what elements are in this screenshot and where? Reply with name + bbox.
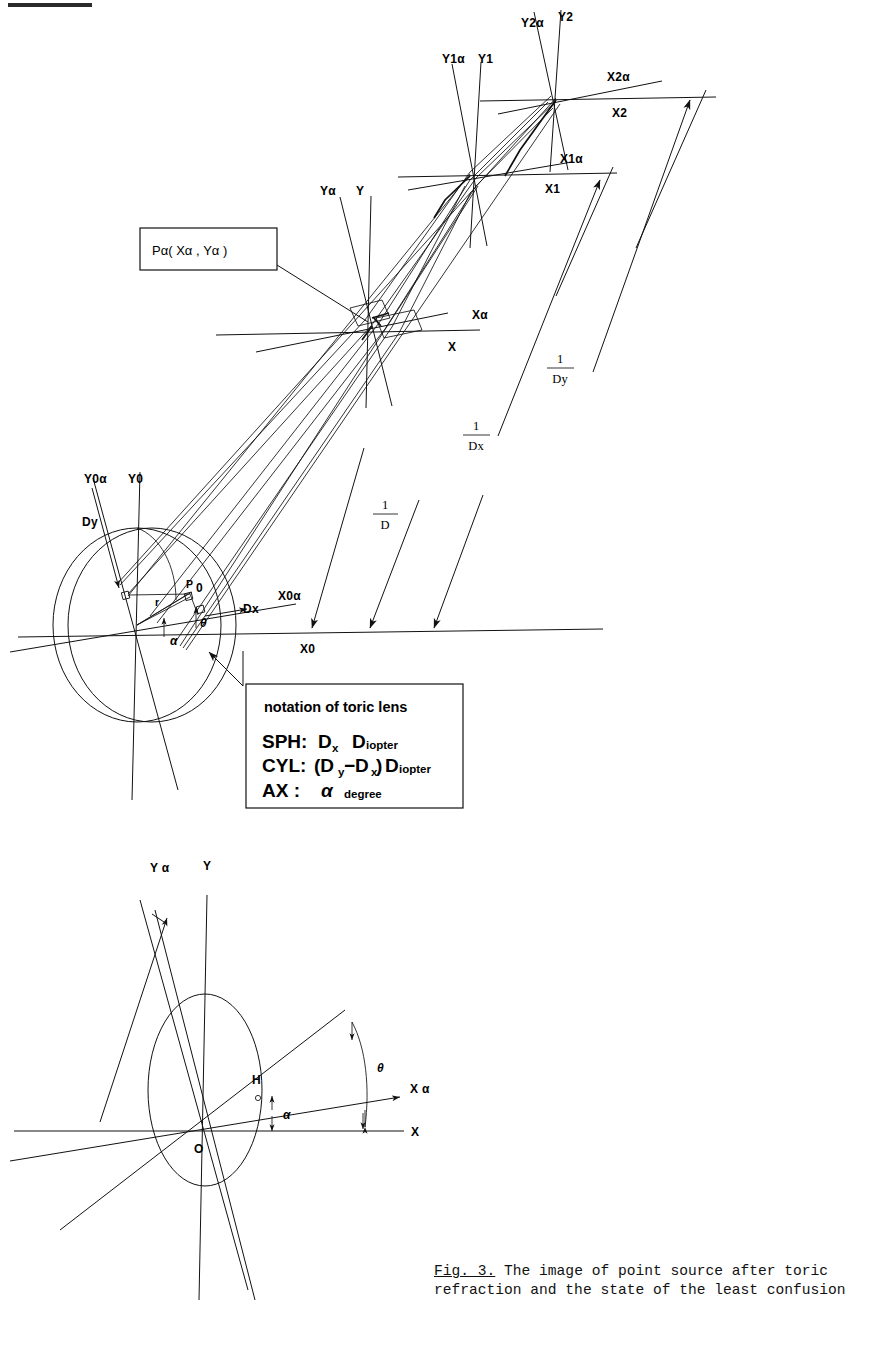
label-Y0: Y0 — [128, 472, 143, 486]
label-Y0alpha: Y0α — [84, 472, 107, 486]
dist-arrow-D-2 — [370, 500, 419, 628]
axis-X2alpha — [498, 81, 662, 114]
lower-lens-ellipse — [148, 994, 262, 1186]
lower-label-H: H — [252, 1073, 261, 1087]
notation-sph-sub: x — [332, 742, 339, 754]
notation-cyl-unit-big: D — [385, 755, 399, 776]
label-theta-lens: θ — [200, 616, 207, 630]
figure-caption: Fig. 3. The image of point source after … — [434, 1262, 886, 1301]
label-Y1: Y1 — [478, 52, 493, 66]
label-X1: X1 — [545, 182, 560, 196]
dist-arrow-D-1 — [312, 448, 364, 628]
lower-label-theta: θ — [377, 1061, 384, 1075]
label-Dy: Dy — [82, 515, 98, 529]
notation-box: notation of toric lens SPH: D x D iopter… — [246, 684, 463, 808]
notation-sph-unit-big: D — [352, 731, 366, 752]
svg-text:D: D — [380, 518, 389, 532]
label-alpha-lens: α — [170, 634, 178, 648]
notation-sph-key: SPH: — [262, 731, 307, 752]
label-X0alpha: X0α — [278, 589, 301, 603]
axis-X-alpha-plane — [216, 330, 480, 335]
point-callout-leader — [277, 265, 368, 322]
label-P0: P — [186, 578, 193, 590]
label-Y1alpha: Y1α — [442, 52, 465, 66]
axis-Y2alpha — [534, 12, 568, 170]
point-H-marker — [255, 1095, 260, 1100]
axis-X2 — [480, 97, 716, 101]
label-Dx: Dx — [243, 602, 259, 616]
drop-P0 — [190, 594, 198, 615]
axis-Y2 — [550, 10, 561, 172]
figure-number: Fig. 3. — [434, 1263, 495, 1279]
label-X1alpha: X1α — [560, 152, 583, 166]
axis-Y0alpha — [93, 478, 178, 790]
distance-label-Dx: 1 Dx — [463, 419, 490, 453]
axis-Xalpha-alpha-plane — [256, 313, 448, 352]
dist-arrow-Dx — [498, 180, 600, 436]
figure-caption-text: The image of point source after toric re… — [434, 1263, 846, 1298]
figure-svg: Y0α Y0 Dy Dx X0α X0 P 0 r α θ Yα Y Xα X … — [0, 0, 895, 1355]
lower-label-O: O — [194, 1142, 204, 1156]
svg-text:Dy: Dy — [552, 372, 568, 386]
dist-line-Dx-upper — [556, 167, 613, 296]
lower-label-X: X — [411, 1125, 419, 1139]
notation-cyl-value3: ) — [376, 755, 382, 776]
notation-ax-value: α — [321, 780, 334, 801]
svg-text:1: 1 — [557, 352, 563, 366]
dist-arrow-D-3 — [434, 495, 483, 628]
axis-Y1 — [470, 62, 481, 248]
figure-page: Y0α Y0 Dy Dx X0α X0 P 0 r α θ Yα Y Xα X … — [0, 0, 895, 1355]
lower-label-Yalpha: Y α — [150, 861, 170, 875]
notation-cyl-unit-rest: iopter — [399, 763, 431, 775]
point-callout: Pα( Xα , Yα ) — [140, 228, 368, 322]
dist-line-Dy-upper — [636, 90, 706, 248]
notation-callout-arrow — [209, 652, 243, 686]
lower-axis-Yalpha — [155, 910, 255, 1300]
label-Y2: Y2 — [558, 10, 573, 24]
notation-ax-unit: degree — [344, 788, 382, 800]
lower-Yalpha-arrow — [100, 918, 167, 1122]
label-r: r — [155, 596, 159, 608]
distance-label-Dy: 1 Dy — [547, 352, 574, 386]
notation-cyl-value2: −D — [344, 755, 369, 776]
notation-sph-value: D — [318, 731, 332, 752]
notation-sph-unit-rest: iopter — [366, 739, 398, 751]
svg-text:Dx: Dx — [468, 439, 484, 453]
distance-label-D: 1 D — [373, 498, 398, 532]
lower-label-Y: Y — [203, 859, 211, 873]
label-X2: X2 — [612, 106, 627, 120]
notation-title: notation of toric lens — [264, 699, 407, 715]
svg-text:1: 1 — [382, 498, 388, 512]
point-callout-label: Pα( Xα , Yα ) — [152, 243, 227, 258]
label-Xalpha: Xα — [472, 308, 488, 322]
lower-line-OH — [60, 1010, 345, 1230]
notation-cyl-value: (D — [314, 755, 334, 776]
axis-X1 — [398, 173, 617, 177]
label-X2alpha: X2α — [607, 70, 630, 84]
top-diagram: Y0α Y0 Dy Dx X0α X0 P 0 r α θ Yα Y Xα X … — [10, 10, 716, 808]
notation-ax-key: AX : — [262, 780, 300, 801]
lower-label-alpha: α — [283, 1108, 291, 1122]
label-Y: Y — [356, 184, 364, 198]
label-P0-subscript: 0 — [196, 581, 203, 595]
axis-Yalpha-alpha-plane — [340, 197, 392, 406]
segment-P0-to-Y0 — [129, 594, 190, 595]
label-Y2alpha: Y2α — [521, 16, 544, 30]
notation-cyl-key: CYL: — [262, 755, 306, 776]
svg-text:1: 1 — [473, 419, 479, 433]
bottom-diagram: Y α Y X α X O H α θ — [10, 859, 430, 1300]
label-X: X — [448, 340, 456, 354]
lower-line-tangent — [140, 900, 248, 1290]
label-Yalpha: Yα — [320, 184, 336, 198]
lower-label-Xalpha: X α — [410, 1082, 430, 1096]
label-X0: X0 — [300, 642, 315, 656]
ray-bundle — [118, 96, 560, 650]
